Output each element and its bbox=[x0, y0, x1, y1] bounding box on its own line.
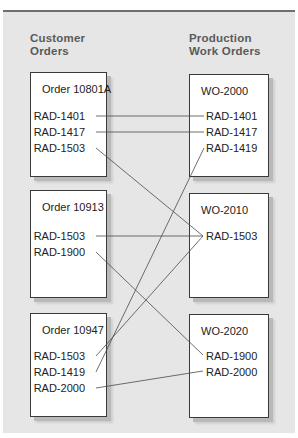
work-order-item: RAD-1503 bbox=[206, 230, 257, 243]
customer-order-box: Order 10801A RAD-1401 RAD-1417 RAD-1503 bbox=[30, 72, 107, 177]
work-order-box: WO-2010 RAD-1503 bbox=[189, 193, 269, 298]
header-line: Production bbox=[189, 32, 261, 45]
customer-order-box: Order 10913 RAD-1503 RAD-1900 bbox=[30, 190, 107, 298]
work-order-title: WO-2020 bbox=[201, 325, 248, 337]
order-item: RAD-1401 bbox=[34, 110, 85, 123]
work-order-box: WO-2020 RAD-1900 RAD-2000 bbox=[189, 314, 269, 418]
order-title: Order 10801A bbox=[42, 83, 111, 95]
customer-order-box: Order 10947 RAD-1503 RAD-1419 RAD-2000 bbox=[30, 313, 107, 417]
order-item: RAD-1503 bbox=[34, 230, 85, 243]
order-item: RAD-1419 bbox=[34, 366, 85, 379]
work-order-box: WO-2000 RAD-1401 RAD-1417 RAD-1419 bbox=[189, 74, 269, 177]
order-title: Order 10913 bbox=[42, 201, 104, 213]
order-item: RAD-1503 bbox=[34, 350, 85, 363]
work-order-title: WO-2000 bbox=[201, 85, 248, 97]
work-order-title: WO-2010 bbox=[201, 204, 248, 216]
order-item: RAD-2000 bbox=[34, 382, 85, 395]
header-line: Work Orders bbox=[189, 45, 261, 58]
header-line: Orders bbox=[30, 45, 85, 58]
customer-orders-header: Customer Orders bbox=[30, 32, 85, 58]
work-order-item: RAD-2000 bbox=[206, 366, 257, 379]
work-order-item: RAD-1417 bbox=[206, 126, 257, 139]
order-item: RAD-1503 bbox=[34, 142, 85, 155]
work-order-item: RAD-1419 bbox=[206, 142, 257, 155]
work-order-item: RAD-1900 bbox=[206, 350, 257, 363]
header-line: Customer bbox=[30, 32, 85, 45]
order-item: RAD-1900 bbox=[34, 246, 85, 259]
order-title: Order 10947 bbox=[42, 324, 104, 336]
order-item: RAD-1417 bbox=[34, 126, 85, 139]
work-orders-header: Production Work Orders bbox=[189, 32, 261, 58]
work-order-item: RAD-1401 bbox=[206, 110, 257, 123]
